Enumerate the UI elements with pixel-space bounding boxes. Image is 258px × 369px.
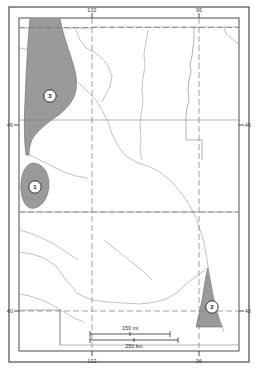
latitude-label-right-upper: 46 [245,122,251,128]
longitude-label-top-right: 96 [196,7,202,13]
latitude-label-right-lower: 40 [245,308,251,314]
scale-bar-miles-label: 150 mi [122,325,138,331]
marker-2[interactable]: 2 [206,301,218,313]
longitude-label-top-left: 102 [87,7,96,13]
marker-1[interactable]: 1 [29,181,41,193]
marker-3[interactable]: 3 [44,90,56,102]
longitude-label-bottom-right: 96 [196,358,202,364]
map-canvas: 102 96 102 96 46 46 40 40 3 1 2 [0,0,258,369]
latitude-label-left-upper: 46 [7,122,13,128]
map-figure: 102 96 102 96 46 46 40 40 3 1 2 [0,0,258,369]
latitude-label-left-lower: 40 [7,308,13,314]
longitude-label-bottom-left: 102 [87,358,96,364]
scale-bar-kilometers-label: 250 km [125,343,143,349]
